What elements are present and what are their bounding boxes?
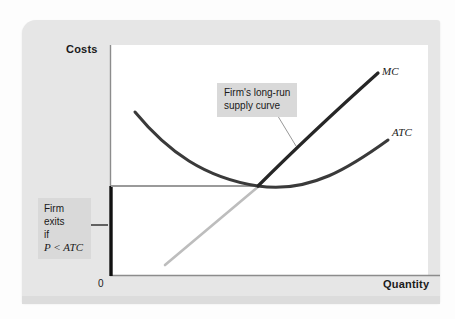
atc-curve-label: ATC xyxy=(392,126,412,138)
supply-callout-line-1: Firm's long-run xyxy=(224,87,290,100)
origin-label: 0 xyxy=(98,278,104,289)
exit-note-condition: P < ATC xyxy=(44,241,83,254)
exit-note-line-3: if xyxy=(44,228,83,241)
exit-note-line-2: exits xyxy=(44,215,83,228)
supply-callout-leader xyxy=(276,113,296,146)
supply-curve-callout: Firm's long-run supply curve xyxy=(217,83,297,117)
y-axis-label: Costs xyxy=(66,43,98,55)
figure-page: Costs Quantity 0 MC ATC Firm's long-run … xyxy=(0,0,455,319)
x-axis-label: Quantity xyxy=(383,278,429,290)
atc-curve xyxy=(135,112,388,187)
supply-callout-line-2: supply curve xyxy=(224,100,290,113)
long-run-supply-line xyxy=(165,186,259,265)
mc-curve-label: MC xyxy=(382,65,399,77)
firm-exit-note: Firm exits if P < ATC xyxy=(38,198,91,259)
exit-note-line-1: Firm xyxy=(44,202,83,215)
